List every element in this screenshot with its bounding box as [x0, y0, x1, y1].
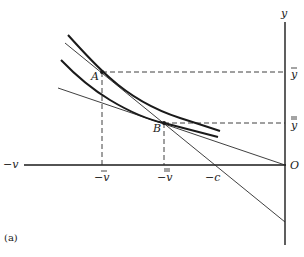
- svg-text:y: y: [290, 119, 298, 132]
- x-tick-v-double-bar: −v: [157, 169, 173, 184]
- svg-text:−v: −v: [94, 171, 110, 184]
- y-axis-label: y: [280, 7, 288, 20]
- svg-text:−v: −v: [157, 171, 173, 184]
- point-b-marker: [162, 121, 166, 125]
- panel-label: (a): [4, 232, 18, 243]
- svg-text:y: y: [290, 68, 298, 81]
- diagram-canvas: A B −v y O −v −v −c y y (a): [0, 0, 304, 257]
- point-b-label: B: [152, 122, 161, 135]
- point-a-label: A: [90, 70, 99, 83]
- x-tick-v-bar: −v: [94, 171, 110, 184]
- shallow-budget-line: [58, 88, 285, 165]
- point-a-marker: [100, 70, 104, 74]
- y-tick-y-double-bar: y: [290, 117, 298, 132]
- origin-label: O: [290, 159, 299, 172]
- x-tick-c: −c: [205, 171, 220, 184]
- x-axis-label: −v: [3, 158, 19, 171]
- y-tick-y-bar: y: [290, 68, 298, 81]
- svg-text:−c: −c: [205, 171, 220, 184]
